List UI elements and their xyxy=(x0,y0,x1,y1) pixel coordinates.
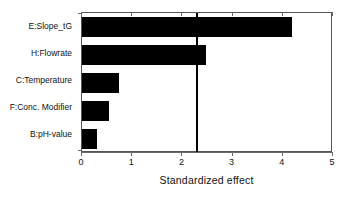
x-axis-line xyxy=(81,152,332,153)
x-tick-2 xyxy=(181,152,182,156)
category-label-3: F:Conc. Modifier xyxy=(10,101,72,113)
bar-0 xyxy=(82,17,292,37)
category-label-1: H:Flowrate xyxy=(31,47,72,59)
category-label-2: C:Temperature xyxy=(16,74,72,86)
category-label-0: E:Slope_tG xyxy=(29,20,72,32)
x-tick-4 xyxy=(282,152,283,156)
x-tick-1 xyxy=(131,152,132,156)
x-tick-top-2 xyxy=(181,12,182,16)
category-label-4: B:pH-value xyxy=(30,128,72,140)
x-tick-3 xyxy=(232,152,233,156)
x-tick-label-4: 4 xyxy=(270,157,294,167)
bars-layer xyxy=(82,13,331,151)
plot-area xyxy=(81,12,332,152)
x-tick-top-0 xyxy=(81,12,82,16)
x-tick-top-4 xyxy=(282,12,283,16)
x-tick-label-5: 5 xyxy=(320,157,344,167)
bar-1 xyxy=(82,45,206,65)
x-tick-5 xyxy=(332,152,333,156)
category-axis-labels: E:Slope_tG H:Flowrate C:Temperature F:Co… xyxy=(0,12,76,152)
x-tick-top-5 xyxy=(332,12,333,16)
bar-3 xyxy=(82,101,109,121)
x-tick-top-1 xyxy=(131,12,132,16)
x-tick-top-3 xyxy=(232,12,233,16)
x-tick-label-1: 1 xyxy=(119,157,143,167)
bar-2 xyxy=(82,73,119,93)
x-tick-0 xyxy=(81,152,82,156)
significance-threshold-line xyxy=(196,13,198,153)
x-axis-title: Standardized effect xyxy=(81,174,332,186)
x-tick-label-0: 0 xyxy=(69,157,93,167)
bar-4 xyxy=(82,129,97,149)
x-tick-label-2: 2 xyxy=(169,157,193,167)
pareto-chart: E:Slope_tG H:Flowrate C:Temperature F:Co… xyxy=(0,0,349,198)
x-tick-label-3: 3 xyxy=(220,157,244,167)
